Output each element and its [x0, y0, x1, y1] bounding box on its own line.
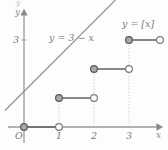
line-y-equals-3-minus-x — [5, 0, 155, 111]
clipped-top-label: y — [16, 0, 21, 7]
endpoint-markers — [21, 37, 164, 131]
step-equation-label: y = [x] — [122, 19, 154, 29]
x-tick-label-2: 2 — [91, 131, 97, 141]
open-point-3-2 — [126, 66, 133, 73]
filled-point-2-2 — [91, 66, 98, 73]
x-axis-label: x — [156, 131, 161, 140]
filled-point-1-1 — [56, 95, 63, 102]
y-tick-label-3: 3 — [13, 35, 19, 45]
open-point-2-1 — [91, 95, 98, 102]
line-series — [5, 0, 155, 111]
step-series — [24, 40, 160, 127]
x-tick-label-1: 1 — [56, 131, 62, 141]
open-point-4-3 — [157, 37, 164, 44]
origin-label: O — [15, 131, 23, 141]
filled-point-3-3 — [126, 37, 133, 44]
line-equation-label: y = 3 − x — [49, 33, 94, 43]
y-axis-label: y — [15, 8, 20, 17]
x-tick-label-3: 3 — [126, 131, 132, 141]
guide-lines — [59, 40, 129, 127]
math-figure: y y x O 3 1 2 3 y = 3 − x y = [x] — [0, 0, 168, 150]
